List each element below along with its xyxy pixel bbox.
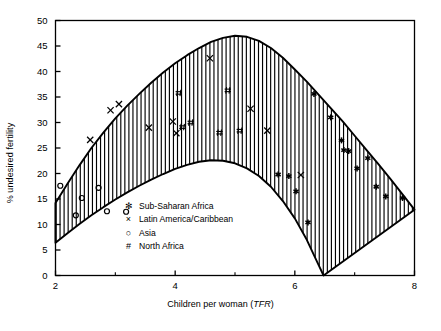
svg-text:15: 15 <box>37 193 48 204</box>
svg-text:5: 5 <box>42 244 47 255</box>
svg-text:35: 35 <box>37 91 48 102</box>
chart-figure: 051015202530354045502468 % undesired fer… <box>0 0 441 331</box>
band-outline <box>56 36 415 276</box>
x-axis-label-text: Children per woman ( <box>167 299 253 309</box>
y-axis-label: % undesired fertility <box>5 93 15 233</box>
svg-text:0: 0 <box>42 270 47 281</box>
svg-text:10: 10 <box>37 219 48 230</box>
x-axis-label-italic: TFR <box>253 299 271 309</box>
legend-marker-icon: ○ <box>122 227 135 240</box>
svg-text:8: 8 <box>412 280 417 291</box>
svg-text:50: 50 <box>37 15 48 26</box>
x-axis-label: Children per woman (TFR) <box>0 299 441 309</box>
svg-text:4: 4 <box>173 280 178 291</box>
chart-legend: ✻Sub-Saharan Africa×Latin America/Caribb… <box>122 200 233 254</box>
svg-text:30: 30 <box>37 117 48 128</box>
svg-text:2: 2 <box>53 280 58 291</box>
svg-text:20: 20 <box>37 168 48 179</box>
axes <box>56 21 415 276</box>
legend-item: #North Africa <box>122 240 233 253</box>
chart-canvas: 051015202530354045502468 <box>0 0 441 331</box>
svg-text:25: 25 <box>37 142 48 153</box>
legend-item: ×Latin America/Caribbean <box>122 213 233 226</box>
legend-label: North Africa <box>135 240 184 253</box>
svg-text:6: 6 <box>292 280 297 291</box>
svg-text:40: 40 <box>37 66 48 77</box>
legend-marker-icon: ✻ <box>122 200 135 213</box>
legend-label: Latin America/Caribbean <box>135 213 233 226</box>
legend-item: ✻Sub-Saharan Africa <box>122 200 233 213</box>
band-hatch-fill <box>56 21 412 276</box>
legend-item: ○Asia <box>122 227 233 240</box>
legend-label: Asia <box>135 227 156 240</box>
legend-marker-icon: # <box>122 240 135 253</box>
y-axis-label-wrap: % undesired fertility <box>2 96 18 236</box>
x-axis-label-tail: ) <box>271 299 274 309</box>
series-latin-america-caribbean <box>87 55 304 178</box>
svg-text:45: 45 <box>37 40 48 51</box>
legend-label: Sub-Saharan Africa <box>135 200 214 213</box>
legend-marker-icon: × <box>122 213 135 226</box>
